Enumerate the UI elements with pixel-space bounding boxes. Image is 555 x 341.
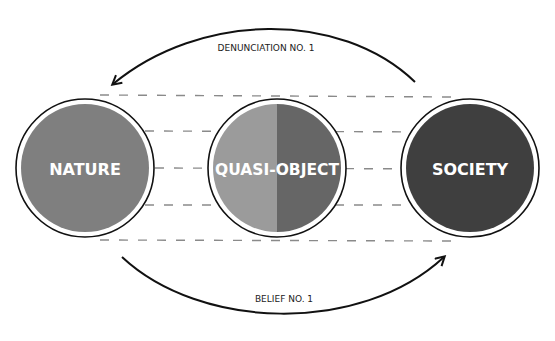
belief-label: BELIEF NO. 1 (255, 294, 313, 304)
node-society: SOCIETY (401, 99, 539, 237)
node-quasi-object: QUASI-OBJECT (208, 99, 346, 237)
nature-label: NATURE (49, 160, 121, 179)
denunciation-label: DENUNCIATION NO. 1 (218, 43, 315, 53)
dashed-line-1 (100, 95, 455, 97)
arrow-belief: BELIEF NO. 1 (122, 257, 444, 314)
belief-arrow-icon (122, 257, 444, 314)
diagram-svg: NATURE QUASI-OBJECT SOCIETY DENUNCIATION… (0, 0, 555, 341)
diagram-canvas: NATURE QUASI-OBJECT SOCIETY DENUNCIATION… (0, 0, 555, 341)
dashed-line-5 (100, 240, 455, 241)
quasi-object-label: QUASI-OBJECT (215, 161, 339, 179)
arrow-denunciation: DENUNCIATION NO. 1 (113, 29, 415, 84)
denunciation-arrow-icon (113, 29, 415, 84)
node-nature: NATURE (16, 99, 154, 237)
society-label: SOCIETY (432, 160, 509, 179)
